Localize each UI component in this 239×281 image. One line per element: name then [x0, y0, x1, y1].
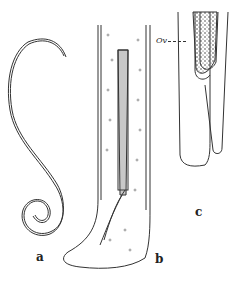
annotation-leader-line: [168, 41, 186, 42]
panel-label-b: b: [155, 252, 163, 266]
panel-b-tail: [64, 25, 150, 268]
panel-label-c: c: [195, 205, 202, 219]
panel-label-a: a: [36, 250, 44, 264]
illustration: [0, 0, 239, 281]
panel-c-structure: [178, 12, 228, 166]
panel-a-worm: [8, 39, 66, 235]
annotation-ov: Ov: [156, 36, 167, 45]
